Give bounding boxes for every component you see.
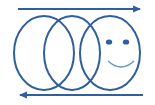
right-eye-icon <box>123 39 129 44</box>
left-eye-icon <box>106 39 112 44</box>
smile-icon <box>108 61 134 67</box>
right-ellipse-face <box>80 16 140 90</box>
diagram-canvas <box>0 0 155 105</box>
caterpillar-diagram <box>0 0 155 105</box>
middle-ellipse <box>44 16 100 90</box>
